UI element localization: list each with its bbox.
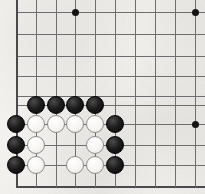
black-stone[interactable] [106, 156, 124, 174]
white-stone[interactable] [47, 115, 65, 133]
white-stone[interactable] [86, 136, 104, 154]
white-stone[interactable] [27, 156, 45, 174]
black-stone[interactable] [106, 136, 124, 154]
white-stone[interactable] [86, 156, 104, 174]
white-stone[interactable] [66, 156, 84, 174]
white-stone[interactable] [86, 115, 104, 133]
go-board-diagram [0, 0, 205, 194]
stones-layer [0, 0, 205, 194]
black-stone[interactable] [27, 96, 45, 114]
white-stone[interactable] [27, 115, 45, 133]
black-stone[interactable] [47, 96, 65, 114]
black-stone[interactable] [66, 96, 84, 114]
black-stone[interactable] [7, 115, 25, 133]
white-stone[interactable] [66, 115, 84, 133]
white-stone[interactable] [27, 136, 45, 154]
black-stone[interactable] [7, 136, 25, 154]
black-stone[interactable] [86, 96, 104, 114]
black-stone[interactable] [106, 115, 124, 133]
black-stone[interactable] [7, 156, 25, 174]
